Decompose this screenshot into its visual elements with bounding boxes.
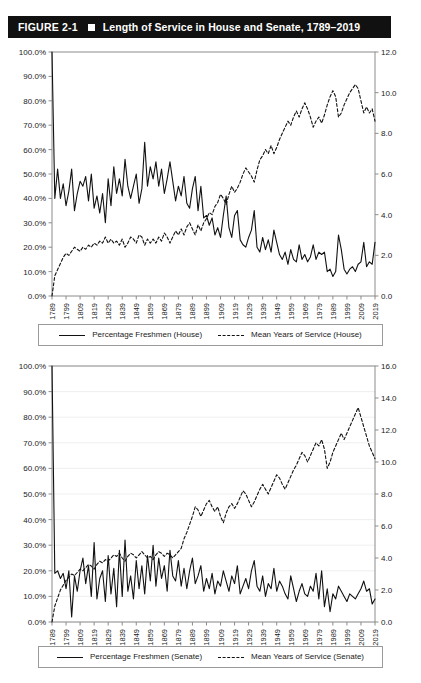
legend-item-freshmen-senate: Percentage Freshmen (Senate) [57, 653, 202, 661]
svg-text:40.0%: 40.0% [23, 516, 46, 525]
svg-text:1899: 1899 [202, 629, 211, 646]
svg-text:10.0: 10.0 [381, 89, 397, 98]
svg-text:8.0: 8.0 [381, 129, 393, 138]
house-plot-area: 0.0%10.0%20.0%30.0%40.0%50.0%60.0%70.0%8… [0, 44, 421, 344]
svg-text:0.0%: 0.0% [28, 618, 46, 627]
svg-text:8.0: 8.0 [381, 490, 393, 499]
senate-chart-svg: 0.0%10.0%20.0%30.0%40.0%50.0%60.0%70.0%8… [0, 358, 421, 670]
svg-text:2.0: 2.0 [381, 586, 393, 595]
svg-text:1899: 1899 [202, 303, 211, 320]
svg-text:1809: 1809 [76, 629, 85, 646]
svg-text:1869: 1869 [160, 629, 169, 646]
svg-text:50.0%: 50.0% [23, 170, 46, 179]
figure-page: FIGURE 2-1 Length of Service in House an… [0, 0, 421, 683]
svg-text:60.0%: 60.0% [23, 146, 46, 155]
svg-text:100.0%: 100.0% [19, 362, 46, 371]
legend-label-mean-years-house: Mean Years of Service (House) [251, 331, 362, 339]
svg-text:6.0: 6.0 [381, 522, 393, 531]
solid-line-swatch-icon [57, 657, 83, 658]
svg-text:80.0%: 80.0% [23, 413, 46, 422]
house-chart-block: 0.0%10.0%20.0%30.0%40.0%50.0%60.0%70.0%8… [0, 44, 421, 344]
svg-text:6.0: 6.0 [381, 170, 393, 179]
svg-text:12.0: 12.0 [381, 48, 397, 57]
svg-text:1809: 1809 [76, 303, 85, 320]
svg-text:10.0%: 10.0% [23, 592, 46, 601]
svg-text:1789: 1789 [48, 303, 57, 320]
svg-text:1949: 1949 [273, 303, 282, 320]
legend-item-freshmen-house: Percentage Freshmen (House) [59, 331, 202, 339]
dashed-line-swatch-icon [218, 335, 244, 336]
svg-text:1879: 1879 [174, 303, 183, 320]
svg-text:30.0%: 30.0% [23, 219, 46, 228]
svg-text:2009: 2009 [357, 629, 366, 646]
svg-text:1839: 1839 [118, 629, 127, 646]
figure-bullet-icon [88, 24, 95, 31]
legend-label-freshmen-house: Percentage Freshmen (House) [92, 331, 202, 339]
svg-text:20.0%: 20.0% [23, 567, 46, 576]
svg-text:1939: 1939 [259, 303, 268, 320]
svg-text:70.0%: 70.0% [23, 121, 46, 130]
svg-text:1949: 1949 [273, 629, 282, 646]
svg-text:1889: 1889 [188, 303, 197, 320]
figure-title-bar: FIGURE 2-1 Length of Service in House an… [8, 16, 391, 38]
svg-text:20.0%: 20.0% [23, 243, 46, 252]
svg-text:1989: 1989 [329, 629, 338, 646]
svg-text:1889: 1889 [188, 629, 197, 646]
svg-text:1929: 1929 [245, 629, 254, 646]
svg-text:1999: 1999 [343, 629, 352, 646]
svg-text:1909: 1909 [217, 629, 226, 646]
house-chart-svg: 0.0%10.0%20.0%30.0%40.0%50.0%60.0%70.0%8… [0, 44, 421, 344]
svg-text:1859: 1859 [146, 629, 155, 646]
svg-text:10.0%: 10.0% [23, 268, 46, 277]
svg-text:30.0%: 30.0% [23, 541, 46, 550]
svg-text:16.0: 16.0 [381, 362, 397, 371]
legend-item-mean-years-senate: Mean Years of Service (Senate) [218, 653, 364, 661]
svg-text:1819: 1819 [90, 303, 99, 320]
svg-text:90.0%: 90.0% [23, 388, 46, 397]
legend-label-mean-years-senate: Mean Years of Service (Senate) [251, 653, 364, 661]
svg-text:14.0: 14.0 [381, 394, 397, 403]
svg-text:40.0%: 40.0% [23, 194, 46, 203]
svg-text:1969: 1969 [301, 303, 310, 320]
svg-text:1939: 1939 [259, 629, 268, 646]
figure-title: Length of Service in House and Senate, 1… [103, 21, 360, 33]
svg-text:1999: 1999 [343, 303, 352, 320]
svg-text:1849: 1849 [132, 303, 141, 320]
legend-item-mean-years-house: Mean Years of Service (House) [218, 331, 362, 339]
senate-chart-block: 0.0%10.0%20.0%30.0%40.0%50.0%60.0%70.0%8… [0, 358, 421, 670]
svg-text:4.0: 4.0 [381, 554, 393, 563]
svg-text:2019: 2019 [371, 629, 380, 646]
senate-plot-area: 0.0%10.0%20.0%30.0%40.0%50.0%60.0%70.0%8… [0, 358, 421, 670]
svg-text:10.0: 10.0 [381, 458, 397, 467]
svg-text:1799: 1799 [62, 303, 71, 320]
svg-text:1839: 1839 [118, 303, 127, 320]
svg-text:2019: 2019 [371, 303, 380, 320]
svg-text:1959: 1959 [287, 629, 296, 646]
figure-number: FIGURE 2-1 [18, 21, 78, 33]
svg-text:100.0%: 100.0% [19, 48, 46, 57]
svg-text:1919: 1919 [231, 303, 240, 320]
svg-text:1909: 1909 [217, 303, 226, 320]
svg-text:70.0%: 70.0% [23, 439, 46, 448]
svg-text:4.0: 4.0 [381, 211, 393, 220]
svg-text:12.0: 12.0 [381, 426, 397, 435]
svg-text:1919: 1919 [231, 629, 240, 646]
svg-text:2009: 2009 [357, 303, 366, 320]
svg-text:1959: 1959 [287, 303, 296, 320]
svg-text:1979: 1979 [315, 629, 324, 646]
legend-label-freshmen-senate: Percentage Freshmen (Senate) [90, 653, 202, 661]
solid-line-swatch-icon [59, 335, 85, 336]
svg-text:1799: 1799 [62, 629, 71, 646]
house-legend: Percentage Freshmen (House) Mean Years o… [38, 324, 383, 346]
svg-text:1879: 1879 [174, 629, 183, 646]
svg-text:1829: 1829 [104, 303, 113, 320]
svg-text:1829: 1829 [104, 629, 113, 646]
svg-text:1869: 1869 [160, 303, 169, 320]
svg-text:80.0%: 80.0% [23, 97, 46, 106]
svg-text:1969: 1969 [301, 629, 310, 646]
dashed-line-swatch-icon [218, 657, 244, 658]
svg-text:0.0: 0.0 [381, 292, 393, 301]
svg-text:1989: 1989 [329, 303, 338, 320]
svg-text:2.0: 2.0 [381, 251, 393, 260]
senate-legend: Percentage Freshmen (Senate) Mean Years … [38, 646, 383, 668]
